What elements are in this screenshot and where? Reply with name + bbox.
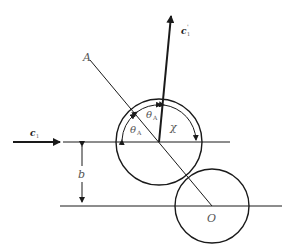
theta-a-lower-label: θ A (130, 124, 142, 136)
svg-text:': ' (187, 23, 189, 30)
origin-label: O (207, 212, 216, 225)
svg-text:A: A (136, 129, 142, 136)
outgoing-velocity-label: c 1 ' (181, 23, 190, 37)
impact-parameter-label: b (78, 168, 85, 181)
collision-diagram: A O b χ θ A θ A c 1 c 1 ' (0, 0, 292, 252)
svg-text:θ: θ (130, 124, 136, 135)
theta-a-upper-label: θ A (146, 109, 158, 121)
svg-text:θ: θ (146, 109, 152, 120)
point-a-label: A (82, 51, 91, 64)
svg-text:A: A (152, 114, 158, 121)
chi-arc (164, 105, 196, 140)
svg-text:1: 1 (187, 31, 190, 37)
incoming-velocity-label: c 1 (30, 128, 39, 139)
chi-label: χ (169, 121, 178, 134)
svg-text:1: 1 (36, 133, 39, 139)
